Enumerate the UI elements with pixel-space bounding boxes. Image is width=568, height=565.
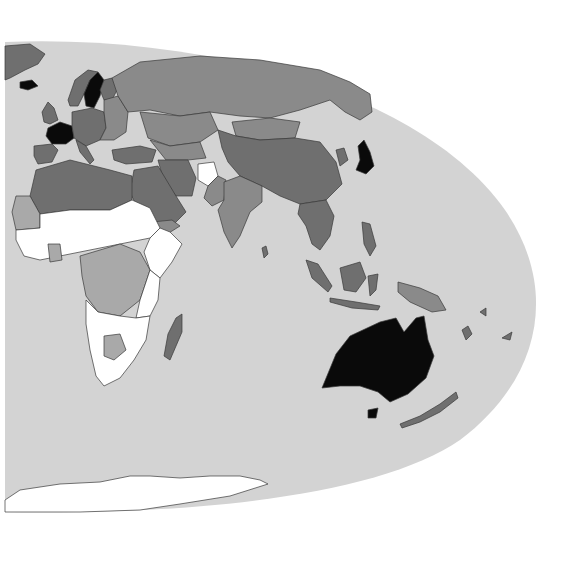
region-tasmania: [368, 408, 378, 418]
choropleth-world-map: [0, 0, 568, 565]
region-ghana: [48, 244, 62, 262]
